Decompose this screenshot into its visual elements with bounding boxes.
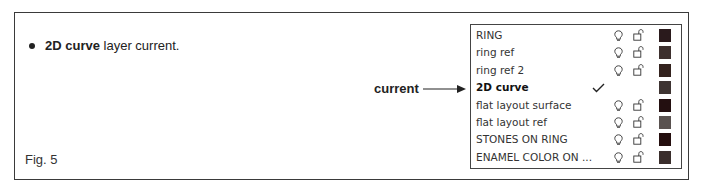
unlocked-padlock-icon[interactable]	[633, 151, 644, 163]
layer-name: STONES ON RING	[476, 131, 568, 148]
figure-caption: Fig. 5	[25, 152, 58, 168]
layer-color-swatch[interactable]	[659, 46, 671, 59]
bulb-icon[interactable]	[614, 47, 623, 58]
layer-row-stones-on-ring[interactable]: STONES ON RING	[471, 131, 681, 148]
bullet-dot-icon	[29, 43, 35, 49]
bullet-point: 2D curve layer current.	[29, 38, 179, 54]
layers-panel: RING ring ref ring ref 2 2D curve flat l…	[470, 24, 682, 169]
layer-color-swatch[interactable]	[659, 29, 671, 42]
layer-row-ring-ref[interactable]: ring ref	[471, 44, 681, 61]
unlocked-padlock-icon[interactable]	[633, 133, 644, 145]
layer-row-ring-ref-2[interactable]: ring ref 2	[471, 62, 681, 79]
layer-row-enamel-color-on[interactable]: ENAMEL COLOR ON ...	[471, 149, 681, 166]
layer-color-swatch[interactable]	[659, 64, 671, 77]
layer-color-swatch[interactable]	[659, 116, 671, 129]
layer-color-swatch[interactable]	[659, 133, 671, 146]
bullet-bold-text: 2D curve	[45, 38, 100, 54]
layer-name: ENAMEL COLOR ON ...	[476, 149, 592, 166]
layer-row-flat-layout-surface[interactable]: flat layout surface	[471, 97, 681, 114]
layer-name: 2D curve	[476, 79, 529, 96]
layer-color-swatch[interactable]	[659, 81, 671, 94]
unlocked-padlock-icon[interactable]	[633, 46, 644, 58]
layer-name: flat layout ref	[476, 114, 547, 131]
layer-name: ring ref	[476, 44, 514, 61]
current-callout-label: current	[374, 81, 419, 97]
layer-row-ring[interactable]: RING	[471, 27, 681, 44]
layer-color-swatch[interactable]	[659, 99, 671, 112]
unlocked-padlock-icon[interactable]	[633, 99, 644, 111]
bulb-icon[interactable]	[614, 152, 623, 163]
bulb-icon[interactable]	[614, 30, 623, 41]
layer-color-swatch[interactable]	[659, 151, 671, 164]
layer-name: RING	[476, 27, 502, 44]
unlocked-padlock-icon[interactable]	[633, 64, 644, 76]
checkmark-icon[interactable]	[592, 83, 605, 93]
layer-row-flat-layout-ref[interactable]: flat layout ref	[471, 114, 681, 131]
bulb-icon[interactable]	[614, 134, 623, 145]
unlocked-padlock-icon[interactable]	[633, 116, 644, 128]
bulb-icon[interactable]	[614, 100, 623, 111]
layer-row-2d-curve[interactable]: 2D curve	[471, 79, 681, 96]
bullet-rest-text: layer current.	[100, 38, 179, 54]
layer-name: flat layout surface	[476, 97, 571, 114]
bulb-icon[interactable]	[614, 117, 623, 128]
layer-list: RING ring ref ring ref 2 2D curve flat l…	[471, 27, 681, 166]
bulb-icon[interactable]	[614, 65, 623, 76]
right-arrow-icon	[423, 84, 467, 94]
unlocked-padlock-icon[interactable]	[633, 29, 644, 41]
layer-name: ring ref 2	[476, 62, 524, 79]
